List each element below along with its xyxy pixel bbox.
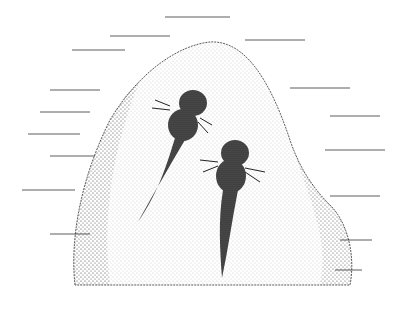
rock xyxy=(74,42,352,285)
illustration xyxy=(0,0,409,312)
ink-drawing xyxy=(0,0,409,312)
